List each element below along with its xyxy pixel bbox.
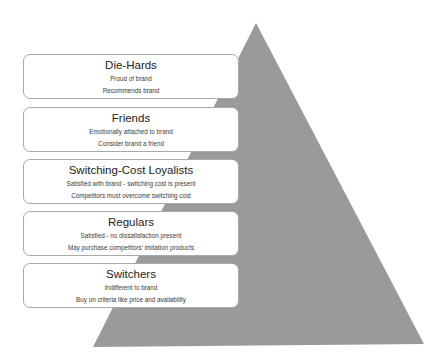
tier-description-line: Satisfied with brand - switching cost is… [24, 178, 238, 190]
tier-switchers: Switchers Indifferent to brand Buy on cr… [23, 263, 239, 308]
tier-regulars: Regulars Satisfied - no dissatisfaction … [23, 211, 239, 256]
tier-friends: Friends Emotionally attached to brand Co… [23, 107, 239, 152]
tier-description-line: Satisfied - no dissatisfaction present [24, 230, 238, 242]
tier-description-line: May purchase competitors' imitation prod… [24, 242, 238, 254]
tier-title: Die-Hards [24, 58, 238, 72]
tier-title: Switching-Cost Loyalists [24, 163, 238, 177]
tier-title: Regulars [24, 215, 238, 229]
tier-die-hards: Die-Hards Proud of brand Recommends bran… [23, 54, 239, 99]
tier-description-line: Indifferent to brand [24, 282, 238, 294]
tier-description-line: Proud of brand [24, 73, 238, 85]
tier-title: Friends [24, 111, 238, 125]
tier-description-line: Recommends brand [24, 85, 238, 97]
tier-description-line: Consider brand a friend [24, 138, 238, 150]
tier-description-line: Competitors must overcome switching cost [24, 190, 238, 202]
tier-description-line: Buy on criteria like price and availabil… [24, 294, 238, 306]
tier-title: Switchers [24, 267, 238, 281]
tier-switching-cost-loyalists: Switching-Cost Loyalists Satisfied with … [23, 159, 239, 204]
brand-loyalty-pyramid-diagram: Die-Hards Proud of brand Recommends bran… [0, 0, 444, 362]
tier-description-line: Emotionally attached to brand [24, 126, 238, 138]
